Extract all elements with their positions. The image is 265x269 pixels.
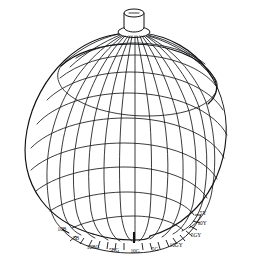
meridian bbox=[104, 36, 130, 241]
hue-label-5bg: 5BG bbox=[109, 247, 119, 253]
parallel-ring bbox=[72, 216, 183, 230]
hue-label-5g: 5G bbox=[152, 246, 159, 252]
apex-knob bbox=[118, 9, 150, 38]
base-tick bbox=[158, 242, 160, 249]
parallel-ring bbox=[31, 143, 217, 179]
meridian bbox=[140, 36, 168, 239]
hue-label-5y: 5Y bbox=[200, 210, 207, 216]
hue-label-5b: 5B bbox=[73, 235, 80, 241]
hue-label-5gy: 5GY bbox=[191, 232, 201, 238]
meridian bbox=[137, 36, 152, 241]
hue-label-10g: 10G bbox=[130, 248, 139, 254]
solid-outline bbox=[25, 33, 226, 240]
hue-label-10bg: 10BG bbox=[87, 244, 100, 250]
meridian bbox=[120, 36, 133, 241]
parallel-ring bbox=[50, 192, 194, 215]
parallel-rings bbox=[31, 43, 227, 230]
hue-label-10b: 10B bbox=[58, 226, 67, 232]
silhouette-right bbox=[143, 33, 226, 236]
hue-label-10gy: 10GY bbox=[170, 242, 183, 248]
parallel-ring bbox=[31, 118, 224, 158]
meridian bbox=[89, 36, 128, 240]
meridian-apex-ray bbox=[148, 35, 208, 70]
shoulder-ellipse bbox=[61, 44, 216, 104]
base-tick bbox=[107, 242, 108, 249]
hue-label-10y: 10Y bbox=[197, 220, 206, 226]
base-tick bbox=[142, 243, 143, 250]
parallel-ring bbox=[36, 167, 207, 198]
color-solid-wireframe: 10B 5B 10BG 5BG 10G 5G 10GY 5GY 10Y 5Y bbox=[0, 0, 265, 269]
meridian bbox=[73, 36, 125, 238]
color-solid-figure: 10B 5B 10BG 5BG 10G 5G 10GY 5GY 10Y 5Y bbox=[0, 0, 265, 269]
hue-label-group: 10B 5B 10BG 5BG 10G 5G 10GY 5GY 10Y 5Y bbox=[58, 210, 207, 254]
meridian bbox=[47, 36, 121, 233]
parallel-ring bbox=[60, 55, 216, 86]
shoulder-ellipse-back bbox=[58, 66, 218, 116]
